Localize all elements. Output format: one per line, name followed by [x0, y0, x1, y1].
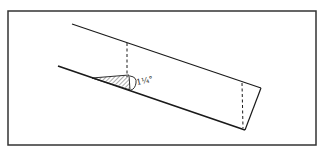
- right-end-edge: [245, 88, 261, 130]
- frame-border: [8, 11, 316, 145]
- diagram-canvas: 1¼°: [0, 0, 326, 149]
- hatched-angle-wedge: [92, 75, 130, 90]
- dashed-drop-right: [242, 83, 243, 128]
- angle-label: 1¼°: [136, 75, 154, 87]
